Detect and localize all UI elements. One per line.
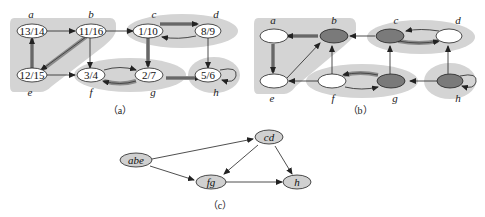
panel-a: 13/14 11/16 1/10 8/9 12/15 3/4 2/7 5/6 [10, 8, 240, 116]
svg-text:12/15: 12/15 [19, 69, 45, 81]
label-d: d [213, 8, 219, 20]
vertex-f-b [318, 74, 346, 88]
vertex-a-b [260, 29, 288, 43]
vertex-a: 13/14 [17, 24, 47, 38]
label-b: b [88, 8, 94, 20]
svg-text:h: h [294, 176, 300, 188]
svg-text:11/16: 11/16 [79, 25, 104, 37]
svg-text:8/9: 8/9 [201, 25, 216, 37]
svg-text:fg: fg [207, 176, 216, 188]
vertex-d-b [436, 29, 462, 43]
label-h: h [213, 86, 219, 98]
vertex-g-b [377, 74, 405, 88]
vertex-h-c: h [283, 175, 311, 189]
label-d-b: d [455, 14, 461, 26]
vertex-e: 12/15 [17, 68, 47, 82]
label-b-b: b [331, 14, 337, 26]
panel-b: a b c d e f g h （b） [254, 14, 476, 116]
label-a: a [28, 8, 34, 20]
label-c-b: c [394, 14, 399, 26]
vertex-d: 8/9 [195, 24, 221, 38]
label-c: c [152, 8, 157, 20]
label-g-b: g [392, 92, 398, 104]
label-e: e [28, 86, 33, 98]
svg-text:cd: cd [264, 131, 275, 143]
edges-c [150, 139, 292, 182]
svg-text:1/10: 1/10 [138, 25, 158, 37]
label-a-b: a [270, 14, 276, 26]
svg-text:2/7: 2/7 [142, 69, 157, 81]
vertex-b: 11/16 [76, 24, 106, 38]
scc-figure: 13/14 11/16 1/10 8/9 12/15 3/4 2/7 5/6 [0, 0, 485, 217]
vertex-g: 2/7 [135, 68, 163, 82]
panel-c: abe cd fg h （c） [120, 130, 311, 211]
vertex-f: 3/4 [77, 68, 105, 82]
vertex-cd: cd [255, 130, 283, 144]
caption-a: （a） [108, 105, 132, 116]
svg-text:5/6: 5/6 [201, 69, 216, 81]
caption-c: （c） [208, 200, 232, 211]
label-e-b: e [270, 92, 275, 104]
vertex-abe: abe [120, 153, 152, 167]
label-h-b: h [455, 92, 461, 104]
vertex-h: 5/6 [195, 68, 221, 82]
caption-b: （b） [348, 105, 373, 116]
vertex-c-b [376, 29, 404, 43]
svg-text:13/14: 13/14 [19, 25, 45, 37]
vertex-c: 1/10 [133, 24, 163, 38]
vertex-h-b [437, 74, 463, 88]
vertex-fg: fg [196, 175, 226, 189]
label-g: g [150, 86, 156, 98]
svg-text:abe: abe [128, 154, 144, 166]
vertex-e-b [260, 74, 288, 88]
vertex-b-b [320, 29, 348, 43]
svg-text:3/4: 3/4 [84, 69, 99, 81]
